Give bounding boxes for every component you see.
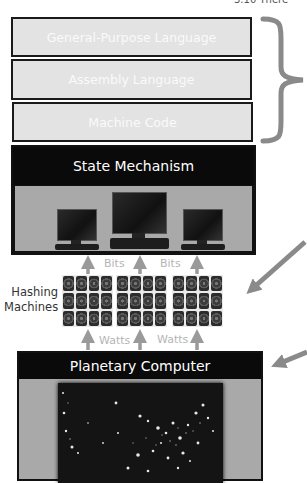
pointer-arrow-icon	[252, 242, 305, 289]
watts-label: Watts	[99, 334, 130, 347]
planetary-computer-box: Planetary Computer	[17, 351, 263, 481]
watts-label: Watts	[157, 333, 188, 346]
bits-label: Bits	[160, 257, 181, 270]
planetary-computer-title: Planetary Computer	[19, 353, 261, 379]
hashing-machines-label: Hashing Machines	[4, 285, 58, 315]
hashing-rack	[62, 275, 113, 327]
hashing-rack	[116, 275, 167, 327]
night-lights-map-image	[58, 383, 223, 483]
pointer-arrow-icon	[278, 352, 307, 364]
bits-label: Bits	[104, 257, 125, 270]
hashing-rack	[172, 275, 223, 327]
